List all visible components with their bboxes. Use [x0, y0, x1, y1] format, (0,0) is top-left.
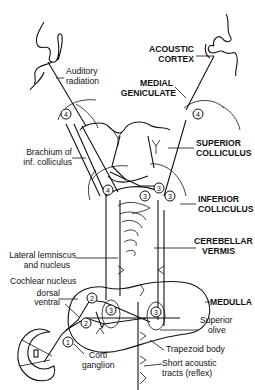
label-inferior-colliculus: INFERIORCOLLICULUS — [198, 194, 254, 214]
node-cochlear-dorsal: 2 — [87, 293, 97, 303]
label-brachium: Brachium ofinf. colliculus — [23, 147, 72, 167]
label-lateral-lemniscus: Lateral lemniscusand nucleus — [9, 250, 76, 270]
hair-cell — [34, 350, 38, 357]
label-corti-ganglion: Cortiganglion — [82, 350, 115, 370]
node-inf-coll-mid: 3 — [140, 191, 150, 201]
label-ventral: ventral — [34, 297, 60, 307]
svg-text:3: 3 — [109, 307, 113, 314]
label-trapezoid-body: Trapezoid body — [166, 344, 226, 354]
svg-text:3: 3 — [143, 193, 147, 200]
svg-text:2: 2 — [84, 320, 88, 327]
svg-text:2: 2 — [90, 295, 94, 302]
svg-text:4: 4 — [106, 187, 110, 194]
cochlea-partition-1 — [22, 340, 52, 356]
auditory-pathway-diagram: 1 2 2 3 3 4 3 3 3 4 4 — [0, 0, 255, 390]
left-acoustic-cortex-outline — [30, 22, 62, 90]
node-geniculate-right: 4 — [193, 109, 203, 119]
label-medial-geniculate: MEDIALGENICULATE — [121, 78, 176, 98]
svg-text:4: 4 — [64, 111, 68, 118]
node-cochlear-ventral: 2 — [81, 318, 91, 328]
label-superior-olive: Superiorolive — [200, 315, 233, 335]
node-inf-coll-top: 3 — [154, 183, 164, 193]
right-geniculate-arc-2 — [222, 106, 240, 130]
right-acoustic-cortex-outline — [205, 14, 237, 76]
svg-text:4: 4 — [196, 111, 200, 118]
node-inf-coll-left: 4 — [103, 185, 113, 195]
label-acoustic-cortex: ACOUSTICCORTEX — [149, 44, 194, 64]
node-geniculate-left: 4 — [61, 109, 71, 119]
svg-text:3: 3 — [168, 193, 172, 200]
label-medulla: MEDULLA — [210, 297, 252, 307]
label-auditory-radiation: Auditoryradiation — [66, 66, 99, 86]
label-cerebellar-vermis: CEREBELLARVERMIS — [194, 236, 254, 256]
svg-text:3: 3 — [154, 309, 158, 316]
node-olive-right: 3 — [147, 302, 165, 330]
node-inf-coll-right: 3 — [165, 191, 175, 201]
label-superior-colliculus: SUPERIORCOLLICULUS — [196, 138, 252, 158]
superior-colliculus-outline — [80, 122, 170, 133]
node-olive-left: 3 — [102, 300, 120, 328]
svg-text:3: 3 — [157, 185, 161, 192]
label-cochlear-nucleus: Cochlear nucleus — [10, 276, 76, 286]
svg-text:1: 1 — [66, 339, 70, 346]
node-corti: 1 — [63, 337, 73, 347]
label-short-acoustic-tracts: Short acoustictracts (reflex) — [162, 358, 217, 378]
cochlea-partition-2 — [20, 360, 50, 366]
cerebellar-vermis-drawing — [118, 202, 150, 256]
left-geniculate-arc-2 — [76, 104, 98, 128]
